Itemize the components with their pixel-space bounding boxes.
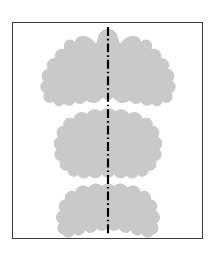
inkblot-svg <box>13 23 202 238</box>
inkblot-plate <box>13 23 202 238</box>
figure-frame <box>12 22 203 239</box>
figure-root: Symmetric Inkblot Figure <box>0 0 215 254</box>
